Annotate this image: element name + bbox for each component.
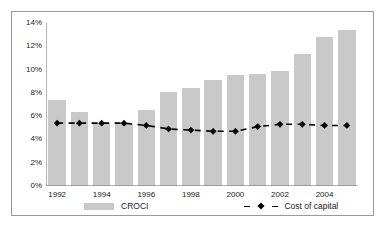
legend-item-cost-of-capital: Cost of capital <box>244 201 338 211</box>
marker-cost-of-capital-2002 <box>277 121 284 128</box>
marker-cost-of-capital-1998 <box>187 127 194 134</box>
marker-cost-of-capital-2000 <box>232 128 239 135</box>
marker-cost-of-capital-1992 <box>54 120 61 127</box>
marker-cost-of-capital-1995 <box>121 120 128 127</box>
y-tick-2: 2% <box>30 159 42 167</box>
axes-and-line-series <box>46 23 358 186</box>
chart-legend: CROCI Cost of capital <box>12 198 373 214</box>
legend-label-cost-of-capital: Cost of capital <box>284 201 338 211</box>
legend-dashed-line-diamond-icon <box>244 202 278 211</box>
y-tick-4: 4% <box>30 135 42 143</box>
axis-lines <box>46 23 358 186</box>
line-series-cost-of-capital <box>54 120 351 135</box>
marker-cost-of-capital-2004 <box>321 122 328 129</box>
y-tick-6: 6% <box>30 112 42 120</box>
marker-cost-of-capital-2003 <box>299 121 306 128</box>
marker-cost-of-capital-1996 <box>143 122 150 129</box>
marker-cost-of-capital-2001 <box>254 123 261 130</box>
y-tick-10: 10% <box>26 66 42 74</box>
legend-swatch-croci-icon <box>84 203 114 210</box>
marker-cost-of-capital-1994 <box>98 120 105 127</box>
y-tick-12: 12% <box>26 42 42 50</box>
y-tick-0: 0% <box>30 182 42 190</box>
marker-cost-of-capital-1993 <box>76 120 83 127</box>
chart-figure: 0%2%4%6%8%10%12%14% 19921994199619982000… <box>11 11 374 216</box>
plot-area: 0%2%4%6%8%10%12%14% 19921994199619982000… <box>46 23 358 186</box>
legend-item-croci: CROCI <box>84 201 148 211</box>
legend-label-croci: CROCI <box>121 201 148 211</box>
marker-cost-of-capital-1999 <box>210 128 217 135</box>
marker-cost-of-capital-1997 <box>165 126 172 133</box>
y-tick-8: 8% <box>30 89 42 97</box>
marker-cost-of-capital-2005 <box>343 122 350 129</box>
y-tick-14: 14% <box>26 19 42 27</box>
